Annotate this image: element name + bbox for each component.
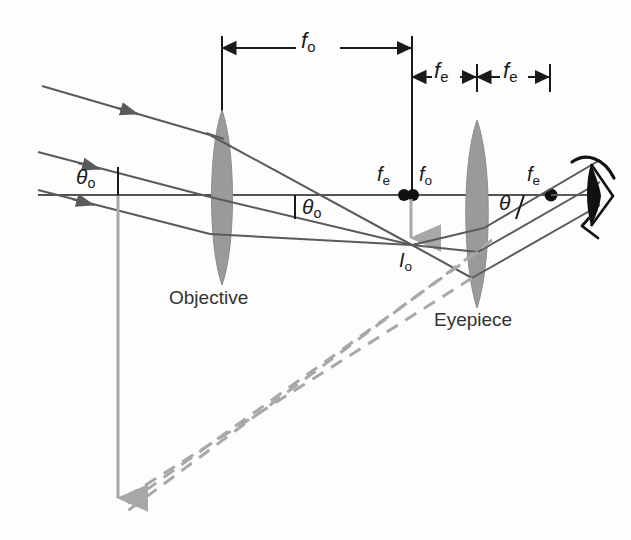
eyepiece-lens-label: Eyepiece xyxy=(434,310,512,329)
telescope-ray-diagram xyxy=(0,0,631,540)
converging-rays xyxy=(206,133,412,245)
emerge-ray-middle xyxy=(478,182,600,252)
focal-point-label-fe: fe xyxy=(377,164,390,187)
focal-dot-fo xyxy=(407,189,419,201)
theta-eye-tick xyxy=(516,195,524,219)
angle-label-theta-o-internal: θo xyxy=(302,196,321,220)
dimension-label-fe-right: fe xyxy=(503,60,517,85)
incoming-rays xyxy=(38,86,210,234)
dimension-label-fe-left: fe xyxy=(434,60,448,85)
angle-label-theta-eye: θ xyxy=(499,192,510,213)
incoming-ray-middle xyxy=(38,152,210,197)
objective-lens-label: Objective xyxy=(169,288,248,307)
eye-icon xyxy=(572,157,614,238)
converge-ray-bottom xyxy=(210,234,412,245)
ray-arrow-bottom xyxy=(72,199,94,205)
converge-ray-top xyxy=(210,135,412,245)
ray-arrow-top xyxy=(118,108,138,114)
virtual-image-rays xyxy=(122,240,492,512)
dimension-label-fo: fo xyxy=(301,30,315,55)
focal-point-label-fe-eye: fe xyxy=(527,164,540,187)
diagram-canvas: fo fe fe θo θo θ fe fo fe Io Objective E… xyxy=(0,0,631,540)
focal-point-label-fo: fo xyxy=(419,164,432,187)
incoming-ray-bottom xyxy=(38,190,210,234)
virtual-ray-c xyxy=(126,240,492,512)
intermediate-image-label: Io xyxy=(399,250,412,273)
angle-label-theta-o-incoming: θo xyxy=(76,166,95,190)
virtual-ray-a xyxy=(122,278,472,500)
